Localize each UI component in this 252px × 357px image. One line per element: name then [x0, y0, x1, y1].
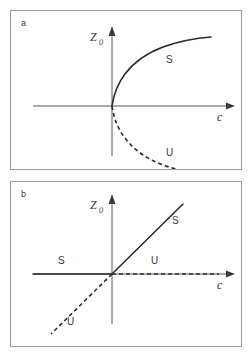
unstable-branch-label: U: [166, 147, 173, 158]
bifurcation-figure: a Z 0 c S U b: [0, 0, 252, 357]
y-axis-label: Z: [90, 198, 97, 212]
panel-b-tag: b: [21, 189, 26, 199]
x-axis-arrow-icon: [226, 103, 235, 110]
panel-a: a Z 0 c S U: [10, 10, 242, 170]
unstable-branch-curve: [112, 106, 211, 169]
panel-a-tag: a: [21, 18, 26, 28]
panel-b: b Z 0 c S U S U: [10, 181, 242, 347]
x-axis-label: c: [217, 110, 223, 124]
x-axis-label: c: [217, 278, 223, 292]
y-axis-label: Z: [90, 30, 97, 44]
y-axis-label-subscript: 0: [99, 38, 103, 47]
y-axis-arrow-icon: [109, 194, 116, 204]
stable-diagonal-label: S: [172, 215, 179, 226]
unstable-diagonal-label: U: [67, 316, 74, 327]
stable-branch-label: S: [166, 54, 173, 65]
y-axis-arrow-icon: [109, 26, 116, 36]
panel-a-plot: Z 0 c S U: [11, 11, 241, 169]
stable-horizontal-label: S: [58, 255, 65, 266]
x-axis-arrow-icon: [226, 271, 235, 278]
unstable-diagonal-branch: [51, 274, 112, 334]
stable-branch-curve: [112, 37, 211, 106]
unstable-horizontal-label: U: [151, 255, 158, 266]
y-axis-label-subscript: 0: [99, 206, 103, 215]
panel-b-plot: Z 0 c S U S U: [11, 182, 241, 346]
